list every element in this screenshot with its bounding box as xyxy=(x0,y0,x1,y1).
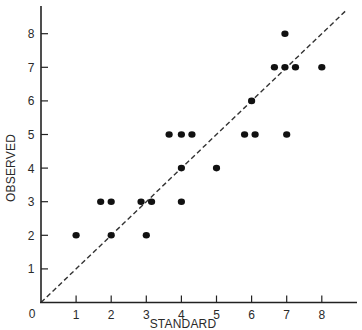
y-tick-label: 7 xyxy=(28,61,35,75)
data-point xyxy=(281,64,288,71)
x-tick-label: 7 xyxy=(283,308,290,322)
x-tick-label: 6 xyxy=(248,308,255,322)
x-axis-title: STANDARD xyxy=(150,317,217,330)
data-point xyxy=(271,64,278,71)
data-point xyxy=(188,131,195,138)
data-point xyxy=(178,198,185,205)
y-axis-title: OBSERVED xyxy=(4,134,18,202)
data-point xyxy=(73,232,80,239)
data-point xyxy=(166,131,173,138)
y-tick-label: 8 xyxy=(28,27,35,41)
y-tick-label: 1 xyxy=(28,262,35,276)
origin-label: 0 xyxy=(29,307,36,321)
data-point xyxy=(108,232,115,239)
data-point xyxy=(108,198,115,205)
data-point xyxy=(178,131,185,138)
data-point xyxy=(143,232,150,239)
y-axis-ticks: 12345678 xyxy=(28,27,48,276)
data-points xyxy=(73,30,326,238)
data-point xyxy=(148,198,155,205)
data-point xyxy=(252,131,259,138)
data-point xyxy=(241,131,248,138)
x-tick-label: 2 xyxy=(108,308,115,322)
data-point xyxy=(178,165,185,172)
y-tick-label: 3 xyxy=(28,195,35,209)
data-point xyxy=(97,198,104,205)
data-point xyxy=(281,30,288,37)
y-tick-label: 4 xyxy=(28,162,35,176)
scatter-chart: 12345678 12345678 0 STANDARD OBSERVED xyxy=(0,0,362,330)
dashed-identity-line xyxy=(41,10,346,302)
y-tick-label: 2 xyxy=(28,229,35,243)
data-point xyxy=(283,131,290,138)
x-tick-label: 1 xyxy=(73,308,80,322)
data-point xyxy=(137,198,144,205)
data-point xyxy=(248,98,255,105)
data-point xyxy=(213,165,220,172)
identity-reference-line xyxy=(41,10,346,302)
x-tick-label: 8 xyxy=(318,308,325,322)
data-point xyxy=(318,64,325,71)
y-tick-label: 5 xyxy=(28,128,35,142)
y-tick-label: 6 xyxy=(28,94,35,108)
data-point xyxy=(292,64,299,71)
